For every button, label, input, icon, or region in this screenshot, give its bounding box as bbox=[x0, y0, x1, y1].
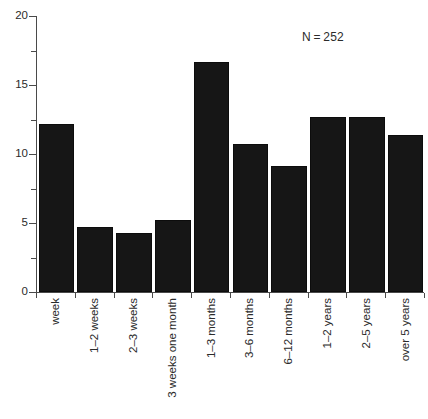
x-tick-label: 1–2 years bbox=[321, 298, 333, 349]
x-tick-label: 6–12 months bbox=[282, 298, 294, 365]
y-tick-label-wrap: 15 bbox=[0, 79, 28, 91]
y-tick-major bbox=[29, 154, 36, 155]
y-tick-label: 10 bbox=[2, 148, 28, 160]
y-tick-major bbox=[29, 16, 36, 17]
y-tick-label: 20 bbox=[2, 10, 28, 22]
x-tick-label: 2–5 years bbox=[360, 298, 372, 349]
x-tick-major bbox=[385, 293, 386, 298]
y-tick-major bbox=[29, 223, 36, 224]
sample-size-annotation: N = 252 bbox=[302, 30, 344, 44]
bar-chart: 05101520 week1–2 weeks2–3 weeks3 weeks o… bbox=[0, 0, 428, 419]
x-tick-label: 2–3 weeks bbox=[127, 298, 139, 353]
bar bbox=[349, 117, 385, 292]
x-tick-major bbox=[114, 293, 115, 298]
y-tick-label-wrap: 5 bbox=[0, 217, 28, 229]
x-tick-label: 3 weeks one month bbox=[166, 298, 178, 398]
y-tick-major bbox=[29, 292, 36, 293]
y-tick-label: 0 bbox=[2, 286, 28, 298]
x-tick-major bbox=[346, 293, 347, 298]
x-axis-labels: week1–2 weeks2–3 weeks3 weeks one month1… bbox=[36, 296, 424, 416]
x-tick-label-slot: 3 weeks one month bbox=[152, 296, 191, 414]
y-tick-label-wrap: 10 bbox=[0, 148, 28, 160]
bar-series bbox=[36, 16, 424, 292]
x-tick-label-slot: 1–3 months bbox=[191, 296, 230, 414]
x-tick-label: week bbox=[49, 298, 61, 325]
bar bbox=[77, 227, 113, 292]
x-tick-major bbox=[191, 293, 192, 298]
y-tick-label: 15 bbox=[2, 79, 28, 91]
x-tick-major bbox=[152, 293, 153, 298]
x-tick-major bbox=[36, 293, 37, 298]
x-tick-major bbox=[308, 293, 309, 298]
x-tick-major bbox=[230, 293, 231, 298]
x-tick-label-slot: 6–12 months bbox=[269, 296, 308, 414]
bar bbox=[388, 135, 424, 292]
bar bbox=[155, 220, 191, 292]
x-tick-label: 1–2 weeks bbox=[88, 298, 100, 353]
bar bbox=[194, 62, 230, 292]
x-tick-label-slot: 2–5 years bbox=[346, 296, 385, 414]
y-tick-major bbox=[29, 85, 36, 86]
y-tick-label-wrap: 0 bbox=[0, 286, 28, 298]
x-tick-label-slot: 1–2 weeks bbox=[75, 296, 114, 414]
x-tick-major bbox=[75, 293, 76, 298]
x-tick-label: 1–3 months bbox=[205, 298, 217, 358]
y-tick-label-wrap: 20 bbox=[0, 10, 28, 22]
y-tick-label: 5 bbox=[2, 217, 28, 229]
x-tick-label-slot: over 5 years bbox=[385, 296, 424, 414]
x-tick-label: over 5 years bbox=[399, 298, 411, 361]
x-tick-label-slot: 2–3 weeks bbox=[114, 296, 153, 414]
x-tick-label-slot: 3–6 months bbox=[230, 296, 269, 414]
x-tick-label-slot: 1–2 years bbox=[308, 296, 347, 414]
bar bbox=[116, 233, 152, 292]
x-tick-label: 3–6 months bbox=[243, 298, 255, 358]
bar bbox=[39, 124, 75, 292]
bar bbox=[233, 144, 269, 292]
bar bbox=[271, 166, 307, 292]
x-tick-major bbox=[269, 293, 270, 298]
bar bbox=[310, 117, 346, 292]
x-tick-label-slot: week bbox=[36, 296, 75, 414]
x-tick-major bbox=[424, 293, 425, 298]
